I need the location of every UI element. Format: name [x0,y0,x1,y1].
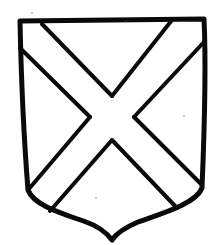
print-speck [31,12,33,14]
heraldic-shield [0,0,224,245]
background [0,0,224,245]
print-speck [95,197,97,199]
print-speck [125,21,127,23]
print-speck [183,115,185,117]
